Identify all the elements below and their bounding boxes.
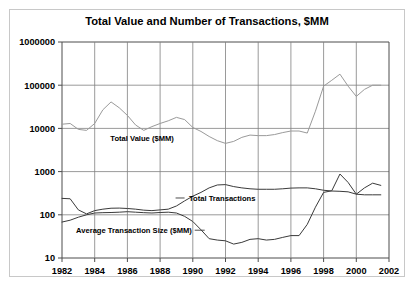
x-axis-tick-label: 1996	[281, 266, 301, 276]
y-axis-tick-label: 100	[40, 210, 55, 220]
x-axis-tick-label: 1992	[215, 266, 235, 276]
series-annotation-label: Total Value ($MM)	[110, 134, 174, 143]
chart-plot: Total Value and Number of Transactions, …	[0, 0, 415, 287]
data-series	[62, 74, 381, 244]
x-axis-tick-label: 1988	[150, 266, 170, 276]
chart-container: Total Value and Number of Transactions, …	[0, 0, 415, 287]
y-axis-tick-label: 10000	[29, 124, 55, 134]
x-axis-tick-label: 1998	[313, 266, 333, 276]
series-annotation-label: Average Transaction Size ($MM)	[76, 226, 192, 235]
y-axis-ticks: 101001000100001000001000000	[19, 37, 62, 263]
x-axis-tick-label: 2002	[379, 266, 399, 276]
x-axis-tick-label: 1982	[52, 266, 72, 276]
x-axis-tick-label: 1990	[183, 266, 203, 276]
y-axis-tick-label: 10	[45, 253, 55, 263]
x-axis-tick-label: 1994	[248, 266, 269, 276]
y-axis-tick-label: 100000	[24, 81, 55, 91]
series-annotation-label: Total Transactions	[189, 194, 256, 203]
x-axis-tick-label: 1986	[117, 266, 137, 276]
x-axis-tick-label: 1984	[84, 266, 105, 276]
y-axis-tick-label: 1000	[35, 167, 55, 177]
x-axis-tick-label: 2000	[346, 266, 366, 276]
series-annotations: Total Value ($MM)Total TransactionsAvera…	[76, 134, 255, 235]
x-axis-ticks: 1982198419861988199019921994199619982000…	[52, 258, 399, 276]
y-axis-tick-label: 1000000	[19, 37, 55, 47]
chart-title: Total Value and Number of Transactions, …	[85, 15, 328, 27]
